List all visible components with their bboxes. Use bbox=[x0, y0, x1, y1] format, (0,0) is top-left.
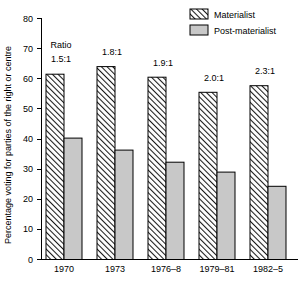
x-tick-label: 1979–81 bbox=[199, 264, 234, 274]
ratio-label: 1.8:1 bbox=[102, 47, 122, 57]
y-axis-tick-labels: 80 70 60 50 40 30 20 10 0 bbox=[23, 14, 33, 265]
hatch-swatch bbox=[190, 9, 208, 19]
bar-group: 2.3:1 1982–5 bbox=[250, 66, 286, 274]
ratio-label: 1.5:1 bbox=[51, 54, 71, 64]
bar-materialist bbox=[97, 67, 115, 260]
x-tick-label: 1970 bbox=[54, 264, 74, 274]
y-tick-label: 50 bbox=[23, 104, 33, 114]
y-tick-label: 80 bbox=[23, 14, 33, 24]
bar-post-materialist bbox=[115, 150, 133, 259]
bar-materialist bbox=[250, 86, 268, 260]
bar-materialist bbox=[46, 74, 64, 259]
bar-post-materialist bbox=[217, 172, 235, 259]
x-tick-label: 1982–5 bbox=[253, 264, 283, 274]
bar-materialist bbox=[148, 77, 166, 259]
y-tick-label: 70 bbox=[23, 44, 33, 54]
y-axis-ticks bbox=[37, 19, 42, 260]
bar-chart: Percentage voting for parties of the rig… bbox=[0, 0, 301, 286]
bar-materialist bbox=[199, 92, 217, 259]
bar-group: 1.9:1 1976–8 bbox=[148, 58, 184, 274]
bar-post-materialist bbox=[166, 162, 184, 259]
bar-group: 1.8:1 1973 bbox=[97, 47, 133, 274]
y-tick-label: 0 bbox=[28, 255, 33, 265]
chart-canvas: Percentage voting for parties of the rig… bbox=[0, 0, 301, 286]
ratio-title: Ratio bbox=[50, 40, 71, 50]
x-tick-label: 1976–8 bbox=[151, 264, 181, 274]
y-axis-title: Percentage voting for parties of the rig… bbox=[3, 46, 13, 244]
legend-label-materialist: Materialist bbox=[214, 10, 256, 20]
chart-legend: Materialist Post-materialist bbox=[190, 9, 277, 36]
gray-swatch bbox=[190, 25, 208, 35]
bar-post-materialist bbox=[64, 138, 82, 259]
y-tick-label: 60 bbox=[23, 74, 33, 84]
bar-group: 2.0:1 1979–81 bbox=[199, 73, 235, 274]
legend-label-post-materialist: Post-materialist bbox=[214, 26, 277, 36]
y-tick-label: 30 bbox=[23, 164, 33, 174]
y-tick-label: 20 bbox=[23, 194, 33, 204]
ratio-label: 2.3:1 bbox=[255, 66, 275, 76]
ratio-label: 1.9:1 bbox=[153, 58, 173, 68]
y-tick-label: 10 bbox=[23, 224, 33, 234]
ratio-label: 2.0:1 bbox=[204, 73, 224, 83]
y-tick-label: 40 bbox=[23, 134, 33, 144]
x-tick-label: 1973 bbox=[105, 264, 125, 274]
bar-group: Ratio 1.5:1 1970 bbox=[46, 40, 82, 274]
bar-post-materialist bbox=[268, 186, 286, 259]
